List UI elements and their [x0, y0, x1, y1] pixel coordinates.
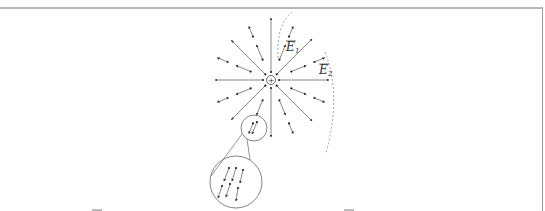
label-e1: E 1 — [285, 40, 299, 55]
field-arrow — [291, 65, 306, 71]
positive-charge: + — [267, 76, 276, 86]
field-arrow — [249, 123, 253, 133]
field-point — [226, 97, 228, 99]
field-point — [288, 122, 290, 124]
field-point — [264, 73, 266, 75]
field-point — [262, 79, 264, 81]
svg-text:1: 1 — [295, 47, 299, 55]
field-point — [276, 73, 278, 75]
field-arrow — [236, 65, 251, 71]
field-arrow — [279, 100, 285, 115]
field-arrow — [249, 26, 253, 36]
field-point — [270, 71, 272, 73]
field-point — [313, 61, 315, 63]
field-point — [278, 99, 280, 101]
field-point — [290, 87, 292, 89]
zoom-inset — [210, 115, 267, 208]
field-point — [290, 70, 292, 72]
field-arrow — [231, 86, 265, 120]
field-arrow — [314, 58, 324, 62]
field-point — [250, 87, 252, 89]
zoom-circle-small — [241, 115, 267, 141]
inset-arrow — [232, 168, 236, 181]
field-point — [278, 79, 280, 81]
field-arrow — [256, 45, 262, 60]
field-arrow — [217, 98, 227, 102]
field-arrow — [236, 88, 251, 94]
svg-text:E: E — [285, 40, 295, 54]
field-point — [313, 97, 315, 99]
label-e2: E 2 — [318, 63, 333, 78]
field-point — [278, 59, 280, 61]
field-arrow — [231, 40, 265, 74]
field-point — [264, 85, 266, 87]
field-point — [226, 61, 228, 63]
field-arrow — [279, 45, 285, 60]
field-point — [261, 99, 263, 101]
inset-arrow — [236, 188, 238, 201]
field-arrow — [256, 100, 262, 115]
field-point — [261, 59, 263, 61]
svg-text:E: E — [318, 63, 328, 77]
field-arrow — [291, 88, 306, 94]
electric-field-diagram: + E 1 E 2 — [0, 0, 545, 211]
field-arrow — [314, 98, 324, 102]
field-arrow — [277, 86, 312, 121]
field-arrow — [289, 123, 293, 133]
field-point — [288, 35, 290, 37]
field-arrow — [289, 26, 293, 36]
equipotential-arcs — [278, 12, 334, 153]
field-point — [252, 122, 254, 124]
inset-arrow — [224, 168, 229, 181]
field-point — [252, 35, 254, 37]
field-point — [270, 87, 272, 89]
inset-arrow — [240, 170, 243, 183]
inset-arrow — [218, 186, 222, 198]
svg-text:2: 2 — [327, 70, 333, 78]
field-point — [276, 85, 278, 87]
inset-arrow — [226, 184, 230, 197]
plus-sign: + — [268, 76, 275, 85]
field-point — [250, 70, 252, 72]
field-arrow — [217, 58, 227, 62]
